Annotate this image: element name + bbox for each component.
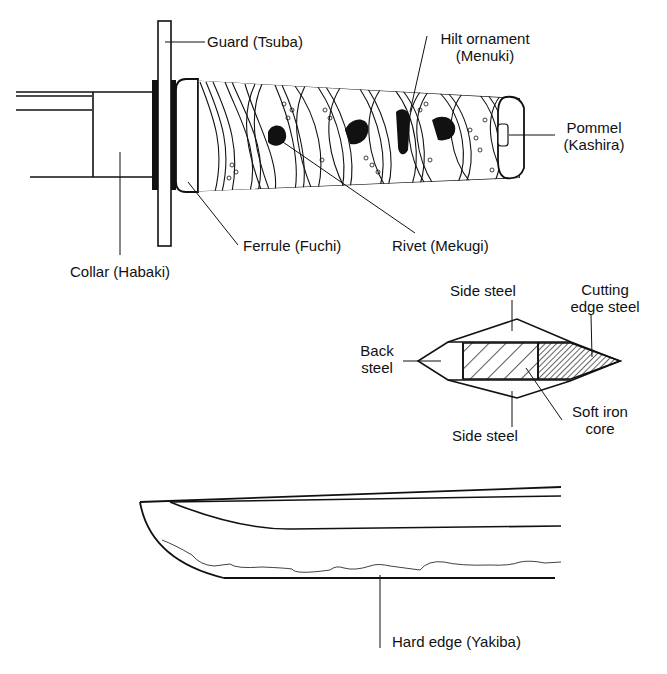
label-cutting-edge-line1: Cutting xyxy=(560,281,650,298)
label-cutting-edge-line2: edge steel xyxy=(560,298,650,315)
label-hard-edge: Hard edge (Yakiba) xyxy=(392,633,521,650)
label-rivet: Rivet (Mekugi) xyxy=(392,237,489,254)
label-ferrule: Ferrule (Fuchi) xyxy=(243,237,341,254)
hamon-line xyxy=(162,540,561,572)
soft-iron-core xyxy=(463,343,538,379)
label-cutting-edge-steel: Cutting edge steel xyxy=(560,281,650,315)
label-side-steel-top: Side steel xyxy=(450,282,516,299)
label-back-steel-line1: Back xyxy=(352,342,402,359)
label-soft-iron-line1: Soft iron xyxy=(560,403,640,420)
label-soft-iron-core: Soft iron core xyxy=(560,403,640,437)
label-pommel-line1: Pommel xyxy=(556,119,632,136)
label-hilt-ornament-line1: Hilt ornament xyxy=(425,30,545,47)
label-back-steel: Back steel xyxy=(352,342,402,376)
blade-stub xyxy=(16,92,155,177)
cross-section xyxy=(418,319,620,398)
hilt-wrap-tsuka xyxy=(198,80,520,192)
sword-illustration xyxy=(0,0,667,674)
label-collar: Collar (Habaki) xyxy=(70,263,170,280)
label-side-steel-bottom: Side steel xyxy=(452,427,518,444)
label-guard: Guard (Tsuba) xyxy=(207,33,303,50)
guard-seppa xyxy=(152,80,158,190)
label-back-steel-line2: steel xyxy=(352,359,402,376)
guard-tsuba xyxy=(158,21,171,246)
label-pommel: Pommel (Kashira) xyxy=(556,119,632,153)
label-pommel-line2: (Kashira) xyxy=(556,136,632,153)
sword-diagram: Guard (Tsuba) Hilt ornament (Menuki) Pom… xyxy=(0,0,667,674)
label-hilt-ornament: Hilt ornament (Menuki) xyxy=(425,30,545,64)
label-hilt-ornament-line2: (Menuki) xyxy=(425,47,545,64)
cutting-edge-steel xyxy=(538,343,620,379)
pommel-knob xyxy=(498,124,508,146)
ferrule-fuchi xyxy=(176,79,198,192)
blade-tip xyxy=(140,487,561,648)
label-soft-iron-line2: core xyxy=(560,420,640,437)
